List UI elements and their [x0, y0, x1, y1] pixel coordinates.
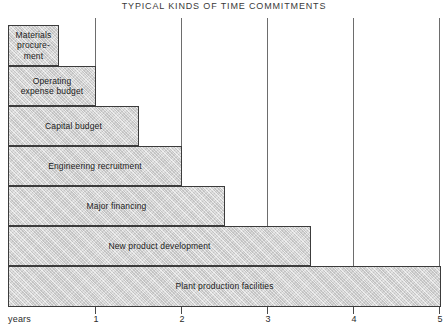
xtick-label-5: 5: [430, 314, 448, 324]
bar-engineering-recruitment[interactable]: Engineering recruitment: [8, 146, 182, 186]
tick-year-3: [267, 307, 268, 314]
chart-figure: TYPICAL KINDS OF TIME COMMITMENTS Materi…: [0, 0, 448, 332]
bar-capital-budget[interactable]: Capital budget: [8, 106, 139, 146]
bar-plant-production-facilities[interactable]: Plant production facilities: [8, 266, 441, 307]
bar-label: Plant production facilities: [173, 281, 275, 292]
bar-label: Capital budget: [43, 121, 104, 132]
bar-label: Operating expense budget: [19, 76, 86, 97]
plot-area: Materials procure- ment Operating expens…: [0, 0, 448, 332]
tick-year-2: [181, 307, 182, 314]
bar-new-product-development[interactable]: New product development: [8, 226, 311, 266]
x-axis-label: years: [8, 314, 31, 324]
bar-materials-procurement[interactable]: Materials procure- ment: [8, 25, 59, 66]
xtick-label-3: 3: [258, 314, 278, 324]
bar-label: Materials procure- ment: [14, 30, 54, 62]
xtick-label-1: 1: [86, 314, 106, 324]
bar-major-financing[interactable]: Major financing: [8, 186, 225, 226]
tick-year-1: [95, 307, 96, 314]
bar-label: Major financing: [85, 201, 149, 212]
xtick-label-2: 2: [172, 314, 192, 324]
bar-operating-expense-budget[interactable]: Operating expense budget: [8, 66, 96, 106]
tick-year-5: [439, 307, 440, 314]
xtick-label-4: 4: [344, 314, 364, 324]
bar-label: New product development: [106, 241, 212, 252]
bar-label: Engineering recruitment: [46, 161, 144, 172]
tick-year-4: [353, 307, 354, 314]
